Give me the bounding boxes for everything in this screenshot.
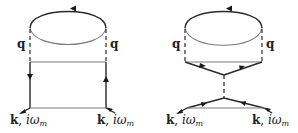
k-label-left: k, iωm (166, 113, 204, 128)
k-label-left: k, iωm (10, 113, 48, 128)
q-label-left: q (172, 37, 181, 51)
right-diagram: q q k, iωm k, iωm (166, 6, 290, 129)
up-arrow-icon (103, 76, 109, 82)
k-label-right: k, iωm (97, 113, 135, 128)
loop-arrow-icon (70, 6, 76, 12)
loop-bottom-arc (30, 28, 106, 45)
q-label-right: q (110, 37, 119, 51)
q-label-left: q (17, 37, 26, 51)
q-label-right: q (266, 37, 275, 51)
upper-leg-left (185, 62, 224, 75)
loop-top-arc (30, 12, 106, 29)
left-diagram: q q k, iωm k, iωm (10, 6, 135, 129)
loop-arrow-icon (226, 6, 232, 12)
loop-top-arc (185, 12, 262, 29)
loop-bottom-arc (185, 28, 262, 45)
upper-leg-right (224, 62, 262, 75)
k-label-right: k, iωm (252, 113, 290, 128)
feynman-diagrams: q q k, iωm k, iωm (0, 0, 298, 133)
down-arrow-icon (27, 74, 33, 80)
